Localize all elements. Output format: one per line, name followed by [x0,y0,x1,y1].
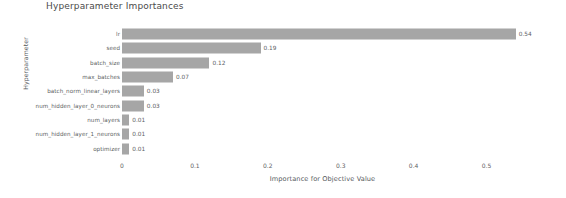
bar-category-label: batch_norm_linear_layers [47,88,120,94]
bar-row: num_hidden_layer_0_neurons0.03 [122,99,523,113]
x-axis-tick: 0.2 [263,162,273,169]
bar-value-label: 0.19 [264,45,277,51]
bar-rect [122,86,144,97]
bar-row: optimizer0.01 [122,142,523,156]
bar-value-label: 0.54 [519,31,532,37]
bar-rect [122,43,261,54]
bar-row: max_batches0.07 [122,70,523,84]
bar-row: num_hidden_layer_1_neurons0.01 [122,127,523,141]
plot-area: lr0.54seed0.19batch_size0.12max_batches0… [122,27,523,156]
bar-value-label: 0.07 [176,74,189,80]
x-axis-tick: 0.3 [336,162,346,169]
bar-category-label: optimizer [93,146,120,152]
bar-category-label: num_hidden_layer_1_neurons [36,131,120,137]
bar-row: lr0.54 [122,27,523,41]
bar-rect [122,143,129,154]
x-axis-tick: 0.1 [190,162,200,169]
bar-rect [122,29,516,40]
bar-value-label: 0.01 [132,131,145,137]
bar-row: batch_size0.12 [122,56,523,70]
bar-row: batch_norm_linear_layers0.03 [122,84,523,98]
y-axis-title: Hyperparameter [22,24,29,104]
chart-title: Hyperparameter Importances [46,1,184,11]
bar-category-label: seed [106,45,120,51]
bar-rect [122,57,209,68]
bar-value-label: 0.03 [147,88,160,94]
bar-value-label: 0.03 [147,103,160,109]
bar-category-label: max_batches [82,74,120,80]
x-axis-tick-labels: 00.10.20.30.40.5 [122,162,523,174]
bar-row: num_layers0.01 [122,113,523,127]
bar-category-label: num_layers [87,117,120,123]
bar-category-label: lr [116,31,120,37]
bar-category-label: batch_size [90,60,120,66]
x-axis-tick: 0 [120,162,124,169]
bar-value-label: 0.01 [132,146,145,152]
bar-value-label: 0.12 [212,60,225,66]
x-axis-tick: 0.4 [409,162,419,169]
bar-row: seed0.19 [122,41,523,55]
bar-rect [122,129,129,140]
bar-value-label: 0.01 [132,117,145,123]
hyperparameter-importance-chart: Hyperparameter Importances Hyperparamete… [0,0,566,198]
bar-rect [122,115,129,126]
x-axis-title: Importance for Objective Value [122,175,523,183]
x-axis-tick: 0.5 [482,162,492,169]
bar-rect [122,72,173,83]
bar-category-label: num_hidden_layer_0_neurons [36,103,120,109]
bar-rect [122,100,144,111]
